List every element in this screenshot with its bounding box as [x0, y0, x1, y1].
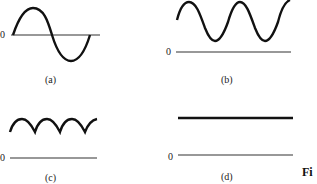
- zero-label-b: 0: [166, 46, 171, 57]
- offset-sine-wave-b: [177, 0, 290, 41]
- zero-label-a: 0: [0, 29, 5, 40]
- waveform-figure: 0 (a) 0 (b) 0 (c) 0 (d) Fi: [0, 0, 317, 184]
- zero-label-c: 0: [0, 152, 5, 163]
- label-b: (b): [221, 74, 233, 86]
- panel-c: 0 (c): [0, 119, 97, 184]
- rectified-arches-c: [10, 119, 97, 132]
- label-c: (c): [45, 172, 56, 184]
- panel-d: 0 (d): [168, 118, 293, 183]
- label-a: (a): [45, 74, 56, 86]
- label-d: (d): [221, 171, 233, 183]
- zero-label-d: 0: [168, 151, 173, 162]
- panel-a: 0 (a): [0, 8, 100, 86]
- panel-b: 0 (b): [166, 0, 291, 86]
- figure-caption-fragment: Fi: [302, 165, 313, 179]
